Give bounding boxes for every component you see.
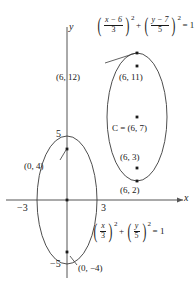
point-label-6-12: (6, 12) [56, 73, 80, 82]
open-paren-icon: ( [98, 17, 102, 34]
equals-one: = 1 [181, 21, 195, 30]
open-paren-icon: ( [94, 223, 98, 240]
equation-origin-ellipse: ( x 3 ) 2 + ( y 5 ) 2 = 1 [92, 222, 166, 241]
point-label-6-11: (6, 11) [119, 73, 143, 82]
equals-one: = 1 [151, 227, 166, 236]
fraction-numerator: x − 6 [104, 16, 123, 24]
point-0-4 [66, 148, 69, 151]
fraction-numerator: y − 7 [151, 16, 170, 24]
fraction-term1: x 3 [99, 222, 107, 241]
point-label-0-minus4: (0, −4) [78, 264, 103, 273]
equation-translated-ellipse: ( x − 6 3 ) 2 + ( y − 7 5 ) 2 [96, 16, 195, 35]
point-origin [66, 199, 69, 202]
point-6-11 [136, 65, 139, 68]
figure-canvas: y x −3 3 5 −5 (0, 4) (0, −4) (6, 12) (6,… [0, 0, 195, 285]
point-label-6-3: (6, 3) [120, 153, 140, 162]
x-tick-label-3: 3 [101, 203, 106, 213]
fraction-denominator: 3 [110, 26, 116, 34]
point-label-6-2: (6, 2) [120, 186, 140, 195]
fraction-term2: y 5 [133, 222, 141, 241]
point-6-7 [136, 116, 139, 119]
point-6-12 [136, 52, 139, 55]
fraction-term2: y − 7 5 [150, 16, 171, 35]
y-tick-label-neg5: −5 [50, 259, 61, 269]
fraction-denominator: 5 [157, 26, 163, 34]
exponent-term2: 2 [148, 221, 152, 228]
exponent-term1: 2 [114, 221, 118, 228]
x-axis-label: x [184, 193, 188, 203]
fraction-denominator: 5 [134, 232, 140, 240]
x-axis-arrow-icon [177, 198, 183, 203]
point-0-minus4 [66, 251, 69, 254]
point-6-2 [136, 180, 139, 183]
y-tick-label-5: 5 [56, 129, 61, 139]
point-label-0-4: (0, 4) [24, 162, 44, 171]
y-axis-label: y [69, 22, 73, 32]
coordinate-plane-svg [0, 0, 195, 285]
close-paren-icon: ) [142, 223, 146, 240]
fraction-term1: x − 6 3 [103, 16, 124, 35]
point-label-center-6-7: C = (6, 7) [112, 124, 147, 133]
fraction-numerator: y [134, 222, 140, 230]
close-paren-icon: ) [126, 17, 130, 34]
exponent-term2: 2 [177, 15, 181, 22]
x-tick-label-neg3: −3 [17, 203, 28, 213]
fraction-numerator: x [100, 222, 106, 230]
exponent-term1: 2 [131, 15, 135, 22]
plus-operator: + [118, 227, 126, 236]
open-paren-icon: ( [144, 17, 148, 34]
plus-operator: + [134, 21, 142, 30]
close-paren-icon: ) [109, 223, 113, 240]
point-6-3 [136, 167, 139, 170]
leader-line-6-12 [105, 53, 136, 63]
close-paren-icon: ) [172, 17, 176, 34]
leader-line-0-4 [60, 150, 66, 160]
open-paren-icon: ( [127, 223, 131, 240]
fraction-denominator: 3 [100, 232, 106, 240]
